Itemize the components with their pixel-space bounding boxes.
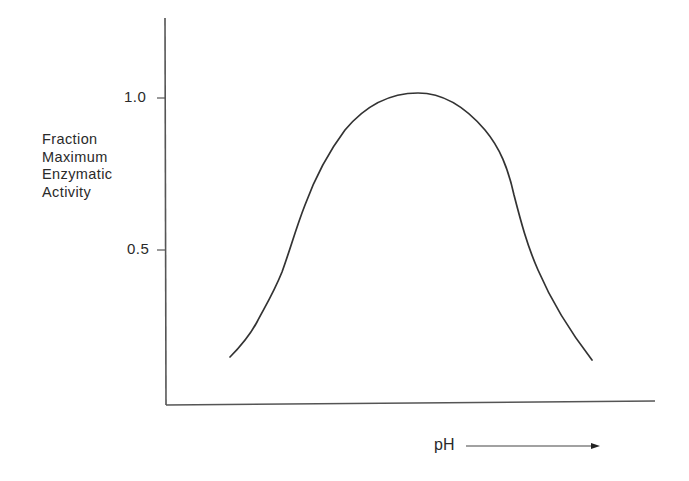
y-tick-label-1: 1.0 — [124, 88, 146, 105]
x-axis — [166, 401, 655, 405]
y-axis-label-line-3: Enzymatic — [42, 166, 112, 184]
y-axis-label-line-2: Maximum — [42, 149, 112, 167]
y-axis-label-line-4: Activity — [42, 184, 112, 202]
arrow-head-icon — [591, 443, 600, 449]
chart-plot — [0, 0, 689, 481]
x-axis-label: pH — [434, 436, 454, 454]
y-tick-label-05: 0.5 — [127, 240, 149, 257]
activity-curve — [230, 93, 592, 360]
y-axis-label: Fraction Maximum Enzymatic Activity — [42, 131, 112, 201]
y-axis — [165, 18, 166, 405]
y-axis-label-line-1: Fraction — [42, 131, 112, 149]
